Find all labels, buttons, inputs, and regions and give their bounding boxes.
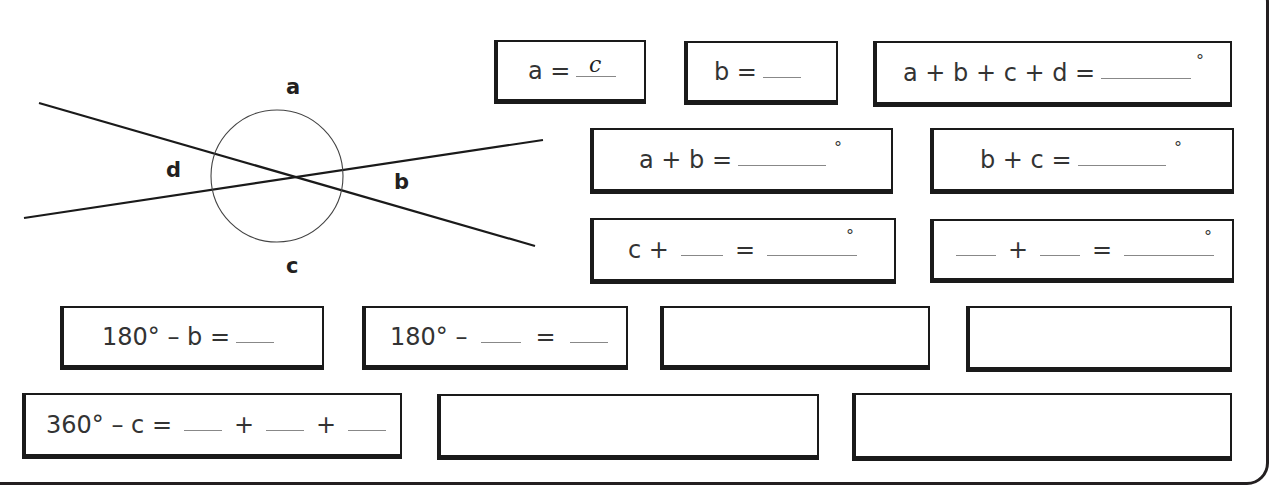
- equation-text: a + b + c + d =: [903, 59, 1095, 87]
- equation-text: b + c =: [980, 146, 1072, 174]
- box-blank-plus[interactable]: + = °: [930, 219, 1234, 283]
- degree-symbol: °: [1174, 138, 1182, 157]
- addend-blank[interactable]: [681, 255, 723, 256]
- box-a[interactable]: a = c: [494, 40, 646, 104]
- equation-text: a =: [528, 57, 570, 85]
- box-sum-all[interactable]: a + b + c + d = °: [873, 41, 1232, 107]
- addend-blank[interactable]: [348, 430, 386, 431]
- answer-blank[interactable]: [236, 342, 274, 343]
- equation-text: 180° –: [390, 323, 467, 351]
- answer-blank[interactable]: [1078, 165, 1166, 166]
- answer-blank[interactable]: [1101, 78, 1191, 79]
- box-b-plus-c[interactable]: b + c = °: [930, 128, 1234, 194]
- angle-label-a: a: [286, 77, 300, 98]
- box-180-minus[interactable]: 180° – =: [362, 306, 628, 370]
- box-180-minus-b[interactable]: 180° – b =: [60, 306, 324, 370]
- equation-text: a + b =: [639, 146, 732, 174]
- addend-blank[interactable]: [1040, 255, 1080, 256]
- equation-text: 360° – c =: [46, 411, 172, 439]
- degree-symbol: °: [1196, 51, 1204, 70]
- box-360-minus-c[interactable]: 360° – c = + +: [22, 393, 402, 459]
- handwritten-answer: c: [589, 52, 601, 77]
- equation-text: =: [1092, 236, 1112, 264]
- answer-blank[interactable]: [1124, 255, 1214, 256]
- addend-blank[interactable]: [956, 255, 996, 256]
- equation-text: =: [535, 323, 555, 351]
- equation-text: c +: [628, 236, 669, 264]
- degree-symbol: °: [834, 138, 842, 157]
- angle-label-c: c: [286, 256, 298, 277]
- box-b[interactable]: b =: [684, 41, 838, 105]
- subtrahend-blank[interactable]: [481, 342, 521, 343]
- box-c-plus[interactable]: c + = °: [590, 218, 896, 284]
- answer-blank[interactable]: [570, 342, 608, 343]
- equation-text: +: [316, 411, 336, 439]
- intersecting-lines-icon: [0, 0, 560, 290]
- equation-text: +: [1008, 236, 1028, 264]
- addend-blank[interactable]: [184, 430, 222, 431]
- box-a-plus-b[interactable]: a + b = °: [590, 128, 893, 194]
- equation-text: =: [735, 236, 755, 264]
- box-empty-3[interactable]: [437, 394, 819, 460]
- angle-label-b: b: [394, 172, 409, 193]
- answer-blank[interactable]: [738, 165, 826, 166]
- answer-blank[interactable]: [763, 77, 801, 78]
- angle-label-d: d: [166, 160, 181, 181]
- intersecting-lines-diagram: a b c d: [0, 0, 560, 290]
- box-empty-2[interactable]: [966, 306, 1232, 372]
- box-empty-1[interactable]: [660, 306, 930, 370]
- addend-blank[interactable]: [266, 430, 304, 431]
- equation-text: b =: [714, 58, 757, 86]
- answer-blank[interactable]: [767, 255, 857, 256]
- equation-text: 180° – b =: [102, 323, 230, 351]
- degree-symbol: °: [846, 226, 854, 245]
- equation-text: +: [234, 411, 254, 439]
- box-empty-4[interactable]: [852, 393, 1232, 461]
- degree-symbol: °: [1204, 227, 1212, 246]
